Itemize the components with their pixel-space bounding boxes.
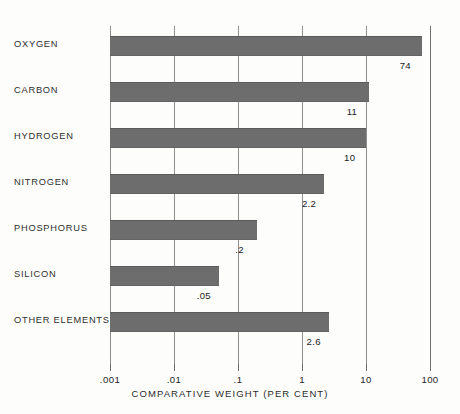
gridline: [366, 26, 367, 364]
x-axis-tick-label: 1: [299, 375, 305, 385]
category-label: HYDROGEN: [14, 132, 110, 141]
bar-value-label: 2.6: [307, 337, 321, 347]
category-label: PHOSPHORUS: [14, 224, 110, 233]
bar-value-label: .2: [235, 245, 244, 255]
x-axis-tick: [366, 364, 367, 371]
x-axis-tick: [110, 364, 111, 371]
bar: [110, 312, 329, 332]
category-label: NITROGEN: [14, 178, 110, 187]
x-axis-tick: [430, 364, 431, 371]
x-axis-tick-label: .01: [167, 375, 182, 385]
x-axis-tick: [302, 364, 303, 371]
category-label: OTHER ELEMENTS: [14, 316, 110, 325]
x-axis-tick: [174, 364, 175, 371]
bar-value-label: 11: [347, 107, 358, 117]
x-axis-tick-label: 100: [421, 375, 438, 385]
gridline: [430, 26, 431, 364]
bar-value-label: 10: [344, 153, 355, 163]
bar: [110, 82, 369, 102]
bar-value-label: 74: [400, 61, 411, 71]
category-label: OXYGEN: [14, 40, 110, 49]
bar: [110, 36, 422, 56]
x-axis-tick: [238, 364, 239, 371]
bar: [110, 174, 324, 194]
x-axis-tick-label: .1: [234, 375, 243, 385]
category-label: CARBON: [14, 86, 110, 95]
category-label: SILICON: [14, 270, 110, 279]
bar: [110, 266, 219, 286]
x-axis-title: COMPARATIVE WEIGHT (PER CENT): [0, 389, 460, 399]
bar-chart-figure: OXYGEN CARBON HYDROGEN NITROGEN PHOSPHOR…: [0, 0, 460, 414]
plot-area: 7411102.2.2.052.6: [110, 26, 430, 364]
x-axis-tick-label: 10: [360, 375, 371, 385]
bar-value-label: .05: [197, 291, 211, 301]
bar: [110, 128, 366, 148]
bar-value-label: 2.2: [302, 199, 316, 209]
x-axis-tick-label: .001: [100, 375, 120, 385]
bar: [110, 220, 257, 240]
